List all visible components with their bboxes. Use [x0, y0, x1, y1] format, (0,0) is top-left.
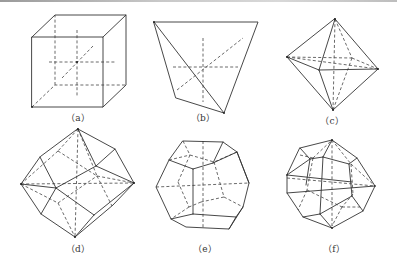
panel-c-octahedron: （c）: [286, 18, 379, 126]
panel-d-rhombic-dodecahedron: （d）: [20, 128, 135, 254]
panel-d-label: （d）: [66, 244, 90, 254]
panel-e-label: （e）: [193, 244, 216, 254]
panel-f-label: （f）: [323, 244, 344, 254]
panel-b-label: （b）: [191, 113, 215, 123]
crystal-forms-figure: （a） （b） （c）: [0, 0, 397, 265]
panel-a-label: （a）: [66, 113, 89, 123]
panel-a-cube: （a）: [31, 15, 126, 123]
panel-e-pentagonal-dodecahedron: （e）: [156, 141, 249, 254]
panel-b-tetrahedron: （b）: [153, 21, 258, 123]
panel-f-trapezohedron: （f）: [286, 139, 376, 254]
panel-c-label: （c）: [320, 116, 343, 126]
